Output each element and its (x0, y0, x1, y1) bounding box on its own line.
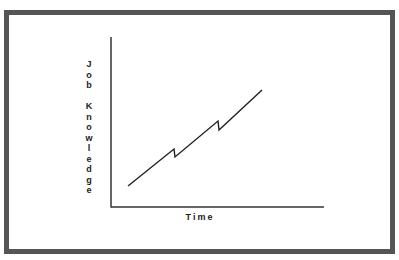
y-axis-letter: g (83, 175, 95, 186)
y-axis-letter: o (83, 122, 95, 133)
y-axis-letter: l (83, 143, 95, 154)
y-axis-letter (83, 91, 95, 102)
y-axis-letter: n (83, 112, 95, 123)
y-axis-letter: o (83, 70, 95, 81)
y-axis-letter: e (83, 154, 95, 165)
y-axis-letter: b (83, 80, 95, 91)
knowledge-line (128, 90, 262, 186)
x-axis-label: Time (170, 212, 230, 222)
y-axis-letter: e (83, 185, 95, 196)
y-axis-letter: d (83, 164, 95, 175)
y-axis-label: Job Knowledge (83, 59, 95, 196)
y-axis-letter: K (83, 101, 95, 112)
y-axis-letter: J (83, 59, 95, 70)
y-axis-letter: w (83, 133, 95, 144)
